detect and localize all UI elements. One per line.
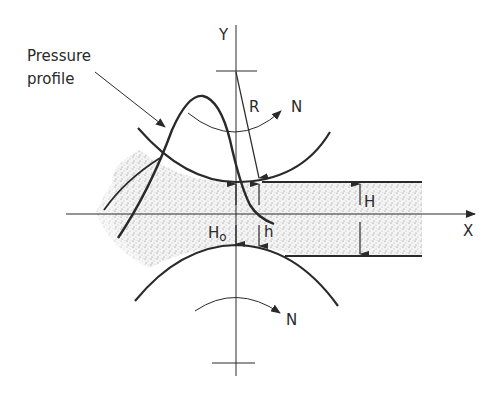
upper-rotation-label: N xyxy=(291,98,302,116)
upper-rotation-arrow xyxy=(188,111,281,132)
lower-rotation-arrow xyxy=(195,297,280,313)
central-film-label: H xyxy=(364,193,375,211)
x-axis-label: X xyxy=(463,222,473,240)
local-film-label: h xyxy=(264,223,274,241)
lower-rotation-label: N xyxy=(286,311,297,329)
pressure-profile-leader xyxy=(95,72,165,127)
radius-label: R xyxy=(249,98,259,116)
pressure-profile-label: Pressure profile xyxy=(27,47,96,88)
min-film-label-main: H xyxy=(208,224,219,242)
y-axis-label: Y xyxy=(218,26,229,44)
radius-line xyxy=(236,72,259,178)
pressure-profile-label-line2: profile xyxy=(27,70,74,88)
min-film-label-sub: o xyxy=(219,230,226,244)
rolling-contact-diagram: X Y R N N Pressure profile Ho h H xyxy=(0,0,503,393)
pressure-profile-label-line1: Pressure xyxy=(27,47,91,65)
